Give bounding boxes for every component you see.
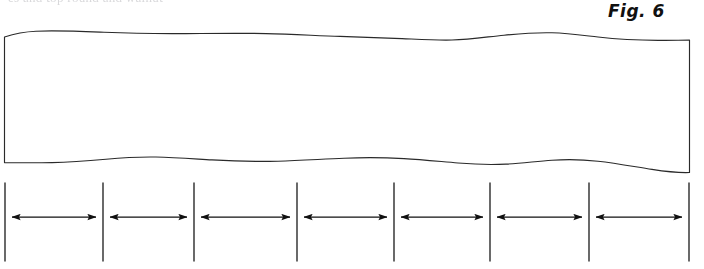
dimension-tick-group [5, 183, 689, 261]
figure-page: es and top round and walnut Fig. 6 [0, 0, 704, 269]
material-band [5, 31, 690, 173]
band-outline [5, 31, 690, 173]
figure-drawing [0, 0, 704, 269]
